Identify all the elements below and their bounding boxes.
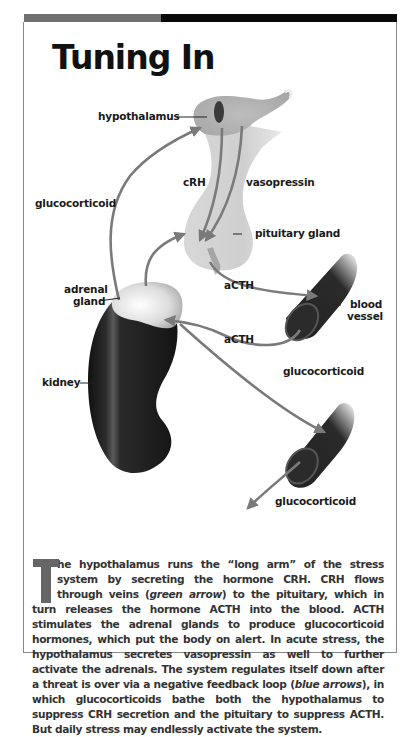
label-adrenal-gland-line2: gland: [73, 295, 105, 307]
label-vasopressin: vasopressin: [246, 176, 315, 188]
label-adrenal-gland-line1: adrenal: [64, 283, 108, 295]
drop-cap-t: [33, 559, 53, 599]
caption-text-part2: ) to the pituitary, which in turn releas…: [32, 588, 384, 690]
figure-caption: he hypothalamus runs the “long arm” of t…: [32, 557, 384, 737]
pituitary-gland-organ: [184, 126, 282, 272]
blood-vessel-lower: [280, 403, 355, 489]
caption-italic-blue-arrows: blue arrows: [295, 678, 362, 690]
label-hypothalamus: hypothalamus: [98, 110, 180, 122]
caption-italic-green-arrow: green arrow: [150, 588, 222, 600]
label-glucocorticoid-bottom: glucocorticoid: [275, 495, 356, 507]
blood-vessel-upper: [279, 254, 357, 347]
glucocorticoid-feedback-arrow-pituitary: [146, 234, 184, 286]
label-glucocorticoid-right: glucocorticoid: [283, 365, 364, 377]
label-blood-vessel-line1: blood: [350, 298, 382, 310]
label-acth-bottom: aCTH: [224, 333, 254, 345]
label-acth-top: aCTH: [224, 279, 254, 291]
label-crh: cRH: [183, 176, 206, 188]
label-pituitary-gland: pituitary gland: [255, 227, 340, 239]
label-glucocorticoid-left: glucocorticoid: [35, 197, 116, 209]
label-blood-vessel-line2: vessel: [347, 310, 383, 322]
glucocorticoid-feedback-arrow-hypothalamus: [111, 128, 200, 300]
label-kidney: kidney: [42, 376, 80, 388]
